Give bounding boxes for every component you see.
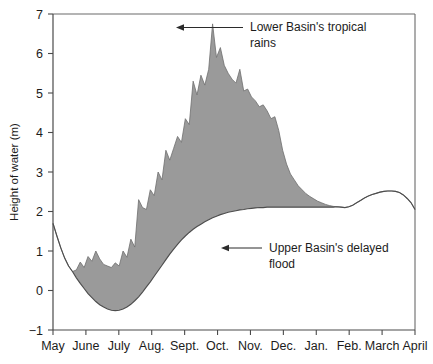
y-tick-label: −1: [29, 324, 43, 338]
y-tick-label: 1: [36, 245, 43, 259]
y-tick-label: 7: [36, 8, 43, 22]
x-tick-label-jan: Jan.: [304, 339, 328, 353]
x-tick-label-april: April: [402, 339, 427, 353]
x-tick-label-nov: Nov.: [238, 339, 263, 353]
y-axis-title: Height of water (m): [8, 123, 20, 221]
x-tick-label-march: March: [365, 339, 400, 353]
x-tick-label-may: May: [41, 339, 65, 353]
y-tick-label: 3: [36, 166, 43, 180]
x-axis-month-labels: MayJuneJulyAug.Sept.Oct.Nov.Dec.Jan.Feb.…: [41, 339, 427, 353]
x-tick-label-june: June: [72, 339, 99, 353]
lower-basin-area-fill: [53, 24, 415, 311]
chart-container: −101234567 MayJuneJulyAug.Sept.Oct.Nov.D…: [0, 0, 433, 364]
y-axis-ticks: [48, 14, 53, 330]
x-tick-label-july: July: [108, 339, 131, 353]
x-tick-label-feb: Feb.: [337, 339, 362, 353]
annotation-upper-basin-line2: flood: [269, 257, 295, 271]
x-tick-label-dec: Dec.: [271, 339, 297, 353]
annotation-lower-basin: Lower Basin's tropical rains: [176, 20, 366, 50]
x-tick-label-oct: Oct.: [206, 339, 229, 353]
y-tick-label: 0: [36, 284, 43, 298]
y-axis-tick-labels: −101234567: [29, 8, 43, 338]
annotation-upper-basin-line1: Upper Basin's delayed: [269, 241, 389, 255]
annotation-lower-basin-line1: Lower Basin's tropical: [250, 20, 366, 34]
annotation-upper-basin: Upper Basin's delayed flood: [221, 241, 389, 271]
y-tick-label: 6: [36, 47, 43, 61]
water-height-area-chart: −101234567 MayJuneJulyAug.Sept.Oct.Nov.D…: [0, 0, 433, 364]
y-tick-label: 4: [36, 126, 43, 140]
y-tick-label: 5: [36, 87, 43, 101]
annotation-lower-basin-line2: rains: [250, 36, 276, 50]
y-tick-label: 2: [36, 205, 43, 219]
x-tick-label-sept: Sept.: [170, 339, 199, 353]
x-tick-label-aug: Aug.: [139, 339, 165, 353]
x-axis-ticks: [53, 330, 415, 335]
